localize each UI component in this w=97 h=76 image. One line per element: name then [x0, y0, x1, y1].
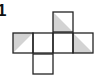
net-cell-mid-2	[33, 33, 53, 53]
cube-net-diagram	[0, 0, 97, 76]
net-cell-mid-3	[53, 33, 73, 53]
shaded-triangle-mid-4	[73, 33, 93, 53]
shaded-triangle-top	[53, 12, 73, 32]
shaded-triangle-mid-1	[13, 33, 33, 53]
net-cell-bottom	[33, 54, 53, 74]
